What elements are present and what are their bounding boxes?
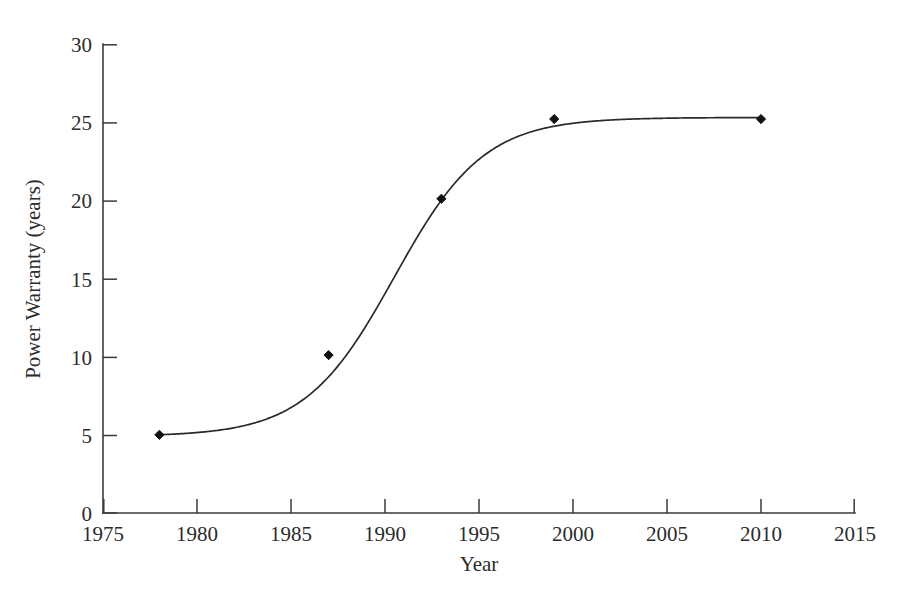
data-point-markers [155,114,766,439]
y-axis-title: Power Warranty (years) [21,179,45,379]
x-tick-label-2005: 2005 [646,522,688,546]
y-tick-label-15: 15 [71,268,92,292]
data-point-marker [324,351,333,360]
x-tick-label-2010: 2010 [740,522,782,546]
x-axis: 1975 1980 1985 1990 1995 2000 2005 2010 … [82,499,876,576]
y-tick-label-20: 20 [71,189,92,213]
x-tick-label-1975: 1975 [82,522,124,546]
x-tick-label-1990: 1990 [364,522,406,546]
y-tick-label-25: 25 [71,111,92,135]
x-tick-label-1980: 1980 [176,522,218,546]
data-point-marker [155,430,164,439]
y-axis: 30 25 20 15 10 5 0 Power Warranty (years… [21,33,117,526]
x-tick-label-2015: 2015 [834,522,876,546]
x-tick-label-2000: 2000 [552,522,594,546]
data-point-marker [550,114,559,123]
chart-figure: 30 25 20 15 10 5 0 Power Warranty (years… [0,0,908,598]
x-tick-label-1985: 1985 [270,522,312,546]
y-tick-label-30: 30 [71,33,92,57]
data-point-marker [756,114,765,123]
y-tick-label-10: 10 [71,346,92,370]
y-tick-label-5: 5 [82,424,93,448]
fitted-sigmoid-curve [159,118,761,435]
x-tick-label-1995: 1995 [458,522,500,546]
chart-canvas: 30 25 20 15 10 5 0 Power Warranty (years… [0,0,908,598]
x-axis-title: Year [460,552,499,576]
